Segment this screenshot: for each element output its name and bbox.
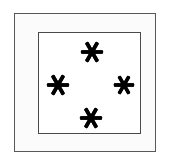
figure-canvas — [0, 0, 169, 162]
outer-frame — [14, 13, 156, 152]
inner-square — [38, 32, 141, 134]
